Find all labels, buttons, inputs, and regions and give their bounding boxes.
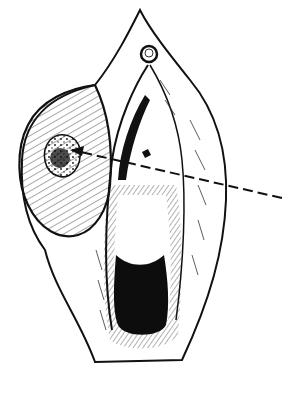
dark-opening — [114, 255, 168, 335]
top-circle-inner — [145, 49, 153, 57]
illustration-svg — [0, 0, 291, 408]
anatomical-illustration — [0, 0, 291, 408]
lesion-core — [50, 148, 70, 168]
